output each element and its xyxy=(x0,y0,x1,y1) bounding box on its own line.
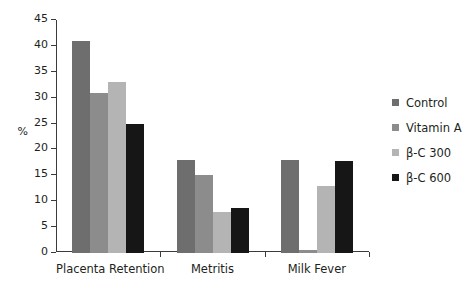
bar-chart: % 051015202530354045 Placenta RetentionM… xyxy=(0,0,470,287)
y-axis-tick: 20 xyxy=(51,148,56,149)
bar xyxy=(281,160,299,253)
y-axis-tick-label: 10 xyxy=(34,193,48,206)
y-axis-line xyxy=(56,20,57,252)
y-axis-title: % xyxy=(10,126,28,138)
y-axis-tick-label: 0 xyxy=(41,245,48,258)
legend-swatch-icon xyxy=(392,124,399,131)
legend-item[interactable]: Vitamin A xyxy=(392,115,462,140)
bar xyxy=(108,82,126,253)
bar xyxy=(299,250,317,253)
y-axis-tick-label: 35 xyxy=(34,64,48,77)
legend-swatch-icon xyxy=(392,149,399,156)
bar xyxy=(231,208,249,253)
y-axis-tick-label: 15 xyxy=(34,167,48,180)
plot-area: 051015202530354045 Placenta RetentionMet… xyxy=(56,18,369,253)
x-axis-category-label: Placenta Retention xyxy=(56,262,160,276)
y-axis-tick: 45 xyxy=(51,19,56,20)
y-axis-tick-label: 40 xyxy=(34,38,48,51)
y-axis-tick-label: 45 xyxy=(34,12,48,25)
x-axis-tick xyxy=(369,252,370,257)
legend-label: β-C 300 xyxy=(406,146,451,160)
y-axis-tick: 15 xyxy=(51,174,56,175)
bar xyxy=(317,186,335,253)
y-axis-tick-label: 5 xyxy=(41,219,48,232)
y-axis-tick-label: 20 xyxy=(34,141,48,154)
legend-label: Vitamin A xyxy=(406,121,462,135)
x-axis-category-label: Metritis xyxy=(160,262,264,276)
bar xyxy=(126,124,144,253)
bar xyxy=(90,93,108,254)
bar xyxy=(213,212,231,253)
y-axis-tick: 5 xyxy=(51,226,56,227)
legend-label: β-C 600 xyxy=(406,171,451,185)
legend-swatch-icon xyxy=(392,99,399,106)
x-axis-category-label: Milk Fever xyxy=(265,262,369,276)
bar xyxy=(195,175,213,253)
y-axis-tick: 30 xyxy=(51,97,56,98)
legend-swatch-icon xyxy=(392,174,399,181)
y-axis-tick: 35 xyxy=(51,71,56,72)
legend-item[interactable]: β-C 300 xyxy=(392,140,462,165)
y-axis-tick: 25 xyxy=(51,123,56,124)
y-axis-tick: 10 xyxy=(51,200,56,201)
x-axis-tick xyxy=(160,252,161,257)
legend-label: Control xyxy=(406,96,448,110)
legend-item[interactable]: β-C 600 xyxy=(392,165,462,190)
y-axis-tick: 40 xyxy=(51,45,56,46)
y-axis-tick-label: 30 xyxy=(34,90,48,103)
bar xyxy=(335,161,353,253)
bar xyxy=(177,160,195,253)
y-axis-tick-label: 25 xyxy=(34,116,48,129)
x-axis-tick xyxy=(265,252,266,257)
legend-item[interactable]: Control xyxy=(392,90,462,115)
legend: ControlVitamin Aβ-C 300β-C 600 xyxy=(392,90,462,190)
y-axis-tick: 0 xyxy=(51,252,56,253)
bar xyxy=(72,41,90,253)
